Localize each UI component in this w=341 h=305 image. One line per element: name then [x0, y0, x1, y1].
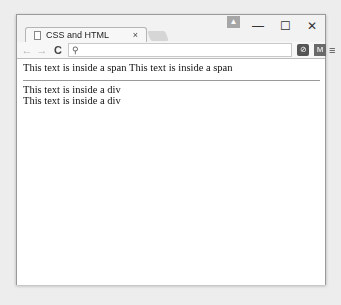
div-block: This text is inside a div This text is i… [23, 84, 121, 106]
page-content: This text is inside a span This text is … [17, 59, 325, 285]
forward-button[interactable]: → [35, 43, 49, 57]
span-text: This text is inside a span [23, 62, 127, 73]
horizontal-rule [23, 80, 320, 81]
m-extension-icon: M [317, 45, 324, 54]
address-bar[interactable]: ⚲ [68, 43, 292, 57]
user-icon: ▲ [230, 17, 238, 26]
tab-title: CSS and HTML [46, 29, 109, 42]
div-text: This text is inside a div [23, 84, 121, 95]
browser-window: ▲ — ☐ ✕ CSS and HTML × ← → C ⚲ ⊘ M [16, 14, 326, 285]
span-line: This text is inside a span This text is … [23, 61, 233, 75]
tab-strip: CSS and HTML × [17, 27, 325, 43]
extension-icon: ⊘ [300, 45, 307, 54]
menu-button[interactable]: ≡ [329, 44, 335, 56]
hamburger-menu-icon: ≡ [329, 44, 335, 56]
search-icon: ⚲ [72, 44, 79, 56]
toolbar: ← → C ⚲ ⊘ M ≡ [17, 42, 325, 59]
new-tab-button[interactable] [147, 31, 169, 41]
tab-close-icon[interactable]: × [133, 29, 138, 42]
page-icon [34, 31, 41, 40]
extension-button-1[interactable]: ⊘ [297, 44, 309, 56]
span-text: This text is inside a span [129, 62, 233, 73]
extension-button-m[interactable]: M [314, 44, 326, 56]
back-button[interactable]: ← [20, 43, 34, 57]
reload-button[interactable]: C [51, 43, 65, 57]
tab-css-and-html[interactable]: CSS and HTML × [25, 27, 147, 43]
div-text: This text is inside a div [23, 95, 121, 106]
